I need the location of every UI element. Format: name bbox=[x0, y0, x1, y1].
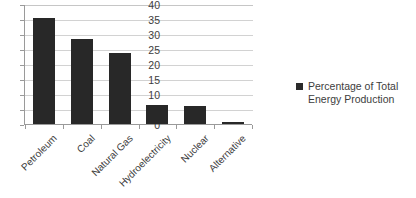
x-axis-tick bbox=[63, 125, 64, 129]
bar[interactable] bbox=[222, 122, 244, 124]
y-axis-tick bbox=[20, 125, 24, 126]
x-axis-tick bbox=[139, 125, 140, 129]
bar[interactable] bbox=[184, 106, 206, 124]
y-axis-tick bbox=[20, 80, 24, 81]
bar-slot bbox=[25, 5, 63, 124]
x-axis-tick bbox=[176, 125, 177, 129]
bar-slot bbox=[176, 5, 214, 124]
bar-series-layer bbox=[25, 5, 252, 124]
y-axis-tick bbox=[20, 35, 24, 36]
bar[interactable] bbox=[146, 105, 168, 124]
bar-chart: 0510152025303540 PetroleumCoalNatural Ga… bbox=[0, 0, 416, 198]
x-axis-tick bbox=[214, 125, 215, 129]
x-axis-tick bbox=[25, 125, 26, 129]
x-axis-tick-label: Petroleum bbox=[0, 133, 59, 198]
x-axis-tick bbox=[101, 125, 102, 129]
y-axis-tick bbox=[20, 65, 24, 66]
y-axis-tick bbox=[20, 5, 24, 6]
bar[interactable] bbox=[33, 18, 55, 124]
legend-swatch-icon bbox=[296, 83, 303, 90]
y-axis-tick bbox=[20, 50, 24, 51]
bar[interactable] bbox=[71, 39, 93, 124]
legend-label: Percentage of Total Energy Production bbox=[308, 80, 414, 105]
bar-slot bbox=[214, 5, 252, 124]
bar-slot bbox=[101, 5, 139, 124]
x-axis-tick bbox=[252, 125, 253, 129]
bar[interactable] bbox=[109, 53, 131, 124]
chart-legend: Percentage of Total Energy Production bbox=[296, 80, 414, 105]
bar-slot bbox=[139, 5, 177, 124]
bar-slot bbox=[63, 5, 101, 124]
y-axis-tick bbox=[20, 20, 24, 21]
y-axis-tick bbox=[20, 110, 24, 111]
y-axis-tick bbox=[20, 95, 24, 96]
